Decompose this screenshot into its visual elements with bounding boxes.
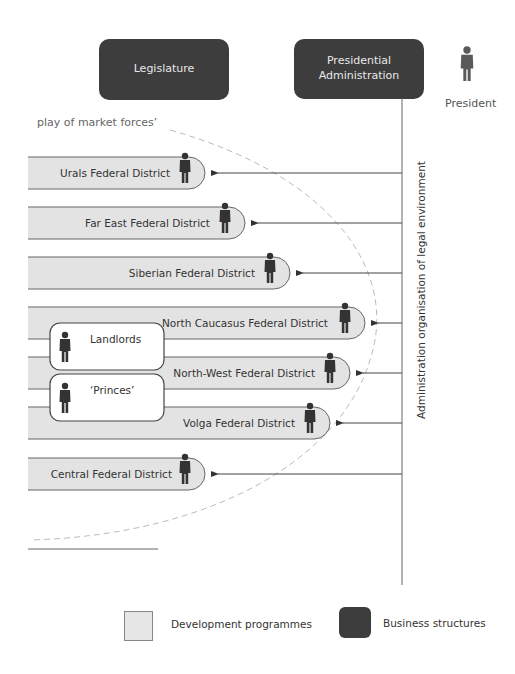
district-label: Siberian Federal District	[129, 267, 255, 279]
president-label: President	[445, 97, 496, 110]
district-label: Central Federal District	[51, 468, 172, 480]
legend-business-swatch	[339, 607, 371, 638]
legend-development-label: Development programmes	[171, 618, 312, 630]
vertical-axis-label: Administration organisation of legal env…	[415, 161, 427, 419]
market-forces-label: play of market forces’	[37, 116, 157, 129]
district-band: Central Federal District	[28, 454, 402, 490]
district-label: Far East Federal District	[85, 217, 210, 229]
diagram-canvas: Urals Federal DistrictFar East Federal D…	[0, 0, 515, 674]
district-label: Volga Federal District	[183, 417, 295, 429]
legend-development-swatch	[124, 611, 153, 641]
district-label: Urals Federal District	[60, 167, 170, 179]
interest-group-label: Landlords	[90, 333, 141, 345]
district-band: Far East Federal District	[28, 203, 402, 239]
interest-group-box: Landlords	[50, 323, 164, 370]
district-label: North-West Federal District	[173, 367, 315, 379]
district-band: Urals Federal District	[28, 153, 402, 189]
district-label: North Caucasus Federal District	[162, 317, 328, 329]
district-band: Siberian Federal District	[28, 253, 402, 289]
interest-group-label: ‘Princes’	[90, 384, 134, 396]
interest-group-box: ‘Princes’	[50, 374, 164, 421]
president-person-icon	[461, 46, 474, 81]
legend-business-label: Business structures	[383, 617, 486, 629]
